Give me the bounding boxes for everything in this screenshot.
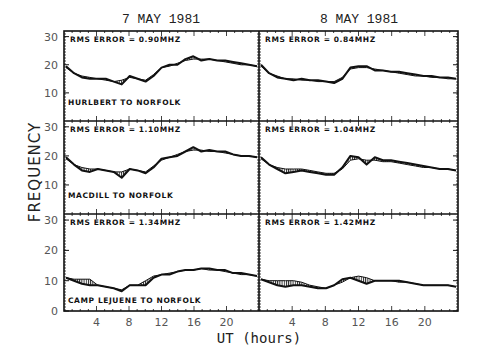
panel-1-0: RMS ERROR = 1.10MHZMACDILL TO NORFOLK [66, 125, 257, 200]
rms-error-label: RMS ERROR = 1.04MHZ [265, 125, 376, 134]
y-tick-label: 30 [44, 214, 58, 227]
y-tick-label: 20 [44, 244, 58, 257]
panel-2-0: RMS ERROR = 1.34MHZCAMP LEJUENE TO NORFO… [66, 218, 257, 305]
observed-line [66, 147, 257, 178]
x-axis-label: UT (hours) [217, 330, 301, 346]
x-tick-label: 12 [155, 316, 169, 329]
frequency-chart-figure: 7 MAY 1981 8 MAY 1981 FREQUENCY UT (hour… [0, 0, 483, 364]
x-tick-label: 16 [385, 316, 399, 329]
x-tick-label: 12 [352, 316, 366, 329]
path-label: CAMP LEJUENE TO NORFOLK [68, 296, 202, 305]
panel-grid: 10203010203001020304812162048121620RMS E… [44, 31, 458, 329]
x-tick-label: 8 [322, 316, 329, 329]
y-tick-label: 10 [44, 179, 58, 192]
rms-error-label: RMS ERROR = 1.34MHZ [70, 218, 181, 227]
x-tick-label: 4 [93, 316, 100, 329]
y-tick-label: 30 [44, 31, 58, 44]
panel-2-1: RMS ERROR = 1.42MHZ [261, 218, 456, 288]
rms-error-label: RMS ERROR = 0.90MHZ [70, 35, 181, 44]
path-label: HURLBERT TO NORFOLK [68, 98, 182, 107]
x-tick-label: 8 [126, 316, 133, 329]
panel-0-0: RMS ERROR = 0.90MHZHURLBERT TO NORFOLK [66, 35, 257, 107]
y-tick-label: 30 [44, 121, 58, 134]
y-tick-label: 10 [44, 87, 58, 100]
x-tick-label: 4 [289, 316, 296, 329]
y-tick-label: 10 [44, 275, 58, 288]
y-tick-label: 20 [44, 59, 58, 72]
rms-error-label: RMS ERROR = 0.84MHZ [265, 35, 376, 44]
y-axis-label: FREQUENCY [26, 122, 44, 222]
observed-line [66, 56, 257, 84]
rms-error-label: RMS ERROR = 1.42MHZ [265, 218, 376, 227]
x-tick-label: 20 [418, 316, 432, 329]
column-title-7-may: 7 MAY 1981 [122, 12, 200, 27]
x-tick-label: 16 [187, 316, 201, 329]
column-title-8-may: 8 MAY 1981 [320, 12, 398, 27]
y-tick-label: 20 [44, 150, 58, 163]
y-tick-label: 0 [51, 305, 58, 318]
panel-0-1: RMS ERROR = 0.84MHZ [261, 35, 456, 83]
panel-1-1: RMS ERROR = 1.04MHZ [261, 125, 456, 175]
path-label: MACDILL TO NORFOLK [68, 191, 174, 200]
observed-line [66, 269, 257, 292]
x-tick-label: 20 [220, 316, 234, 329]
rms-error-label: RMS ERROR = 1.10MHZ [70, 125, 181, 134]
